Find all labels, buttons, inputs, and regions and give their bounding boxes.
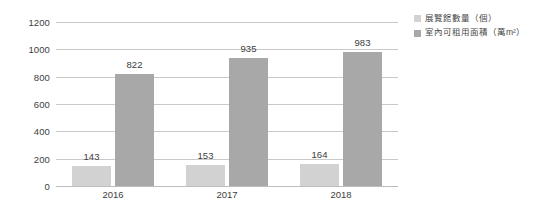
legend-item-area: 室內可租用面積（萬m²） — [414, 28, 538, 37]
bar-venues-2018: 164 — [300, 164, 339, 186]
legend-swatch-icon — [414, 30, 421, 37]
x-axis: 2016 2017 2018 — [56, 190, 398, 200]
y-tick-label: 1000 — [6, 45, 50, 55]
legend-item-venues: 展覽館數量（個） — [414, 14, 538, 23]
bar-value-label: 822 — [127, 60, 143, 70]
bar-group-2017: 153 935 — [170, 22, 284, 186]
y-tick-label: 200 — [6, 155, 50, 165]
y-tick-label: 400 — [6, 127, 50, 137]
bar-group-2018: 164 983 — [284, 22, 398, 186]
bar-value-label: 164 — [312, 150, 328, 160]
bar-group-2016: 143 822 — [56, 22, 170, 186]
y-tick-label: 0 — [6, 182, 50, 192]
bar-value-label: 983 — [355, 38, 371, 48]
x-axis-line — [56, 186, 398, 187]
bar-area-2017: 935 — [229, 58, 268, 186]
y-axis: 1200 1000 800 600 400 200 0 — [0, 22, 50, 186]
x-tick-label-2018: 2018 — [284, 190, 398, 200]
x-tick-label-2016: 2016 — [56, 190, 170, 200]
bar-venues-2016: 143 — [72, 166, 111, 186]
bar-area-2018: 983 — [343, 52, 382, 186]
bar-groups: 143 822 153 935 164 983 — [56, 22, 398, 186]
bar-venues-2017: 153 — [186, 165, 225, 186]
legend-swatch-icon — [414, 15, 421, 22]
x-tick-label-2017: 2017 — [170, 190, 284, 200]
y-tick-label: 600 — [6, 100, 50, 110]
bar-value-label: 153 — [198, 151, 214, 161]
bar-area-2016: 822 — [115, 74, 154, 186]
bar-chart: 1200 1000 800 600 400 200 0 143 822 153 — [0, 0, 540, 219]
legend-label: 室內可租用面積（萬m²） — [425, 28, 525, 37]
bar-value-label: 143 — [84, 152, 100, 162]
y-tick-label: 800 — [6, 73, 50, 83]
bar-value-label: 935 — [241, 44, 257, 54]
legend-label: 展覽館數量（個） — [425, 14, 497, 23]
legend: 展覽館數量（個） 室內可租用面積（萬m²） — [414, 14, 538, 43]
y-tick-label: 1200 — [6, 18, 50, 28]
